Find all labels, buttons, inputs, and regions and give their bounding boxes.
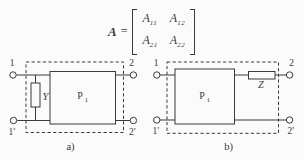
network-label-b: P [199,90,205,101]
series-impedance-element [249,72,276,80]
network-label-a-sub: 1 [85,96,88,103]
series-impedance-label: Z [258,79,264,90]
matrix-entry-a12: A12 [170,11,185,30]
entry-a12-sub: 12 [177,19,185,27]
network-label-b-sub: 1 [207,96,210,103]
matrix-entries: A11 A12 A21 A22 [137,9,190,55]
matrix-entry-a22: A22 [170,33,185,52]
diagram-b: 1 1′ 2 2′ Z P 1 b) [152,55,304,160]
caption-b: b) [224,141,233,153]
matrix-lhs-symbol: A [108,24,117,40]
terminal-label-b-1: 1 [154,58,159,68]
terminal-a-1prime [10,117,16,123]
matrix-entry-a11: A11 [142,11,157,30]
diagram-a: 1 1′ 2 2′ Y P 1 a) [0,55,152,160]
equals-sign: = [121,24,128,39]
terminal-label-a-2: 2 [129,58,134,68]
terminal-b-1prime [154,117,160,123]
network-label-a: P [77,90,83,101]
terminal-label-b-1prime: 1′ [153,126,160,136]
caption-a: a) [66,141,75,153]
terminal-a-2 [130,72,136,78]
matrix-equation: A = A11 A12 A21 A22 [108,9,195,55]
terminal-label-a-1prime: 1′ [9,127,16,137]
terminal-a-2prime [130,117,136,123]
shunt-admittance-element [31,83,40,107]
terminal-label-b-2prime: 2′ [288,126,295,136]
terminal-label-b-2: 2 [289,58,294,68]
matrix-bracket-right [190,9,195,55]
figure-two-port-networks: A = A11 A12 A21 A22 1 1′ 2 2′ Y P 1 a) [0,0,304,160]
terminal-label-a-1: 1 [10,58,15,68]
terminal-label-a-2prime: 2′ [129,127,136,137]
terminal-b-2prime [286,117,292,123]
entry-a11-sub: 11 [150,19,157,27]
matrix-entry-a21: A21 [142,33,157,52]
entry-a22-sub: 22 [177,42,185,50]
entry-a21-sub: 21 [150,42,158,50]
shunt-admittance-label: Y [43,91,50,102]
entry-a11-base: A [142,11,149,25]
dashed-boundary-a [26,62,124,133]
entry-a21-base: A [142,33,149,47]
terminal-b-1 [154,72,160,78]
terminal-b-2 [286,72,292,78]
terminal-a-1 [10,72,16,78]
